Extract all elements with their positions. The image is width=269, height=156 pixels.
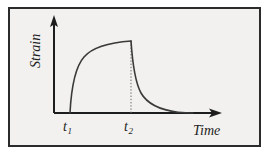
tick-label-t2: t2: [124, 120, 132, 134]
tick-label-t1: t1: [63, 120, 71, 134]
tick-label-t2-subscript: 2: [128, 126, 133, 136]
plot-canvas: [0, 0, 269, 156]
x-axis-label: Time: [193, 124, 220, 138]
x-axis: [54, 109, 222, 118]
y-axis: [50, 15, 58, 113]
creep-rise-curve: [70, 41, 131, 113]
creep-recovery-figure: Strain Time t1 t2: [0, 0, 269, 156]
y-axis-label: Strain: [29, 54, 43, 68]
tick-label-t1-subscript: 1: [67, 126, 72, 136]
recovery-decay-curve: [131, 41, 193, 113]
